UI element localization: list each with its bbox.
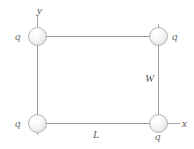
charge-sphere-top-right <box>149 27 168 46</box>
charge-sphere-top-left <box>28 27 47 46</box>
y-axis-label: y <box>37 5 42 16</box>
edge-top <box>37 36 158 37</box>
charge-sphere-bottom-left <box>28 114 47 133</box>
edge-bottom <box>37 123 158 124</box>
edge-right <box>158 36 159 123</box>
x-axis-label: x <box>182 118 187 129</box>
charge-label-bottom-left: q <box>15 118 21 129</box>
charge-square-diagram: q q q q y x W L <box>0 0 194 149</box>
charge-label-bottom-right: q <box>155 131 161 142</box>
length-dimension-label: L <box>93 129 99 140</box>
charge-label-top-right: q <box>172 31 178 42</box>
width-dimension-label: W <box>145 73 154 84</box>
charge-label-top-left: q <box>15 31 21 42</box>
edge-left <box>37 36 38 123</box>
